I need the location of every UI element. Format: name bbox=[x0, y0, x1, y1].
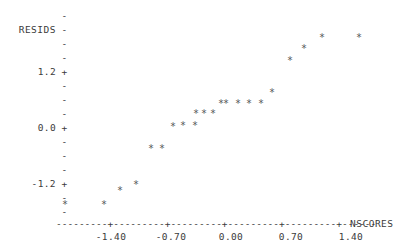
data-point: * bbox=[148, 145, 155, 152]
x-axis-tick-label: -0.70 bbox=[156, 230, 187, 244]
data-point: * bbox=[246, 100, 253, 107]
data-point: * bbox=[356, 34, 363, 41]
data-point: * bbox=[258, 100, 265, 107]
data-point: * bbox=[319, 34, 326, 41]
data-point: * bbox=[101, 201, 108, 208]
x-axis-tick-label: -1.40 bbox=[96, 230, 127, 244]
x-axis-title: NSCORES bbox=[350, 219, 394, 229]
data-point: * bbox=[133, 181, 140, 188]
data-point: * bbox=[193, 110, 200, 117]
data-point: * bbox=[159, 145, 166, 152]
data-point: * bbox=[269, 89, 276, 96]
data-point: * bbox=[170, 123, 177, 130]
data-point: * bbox=[235, 100, 242, 107]
data-point: * bbox=[223, 100, 230, 107]
x-axis-tick-label: 1.40 bbox=[339, 230, 363, 244]
data-point: * bbox=[192, 122, 199, 129]
data-point: * bbox=[62, 201, 69, 208]
normal-probability-plot: -RESIDS---1.2+---0.0+----1.2+-- ********… bbox=[0, 0, 414, 251]
x-axis-tick-label: 0.70 bbox=[279, 230, 303, 244]
data-point: * bbox=[180, 122, 187, 129]
x-axis-tick-label: 0.00 bbox=[219, 230, 243, 244]
data-point: * bbox=[287, 57, 294, 64]
data-point: * bbox=[201, 110, 208, 117]
data-point: * bbox=[117, 187, 124, 194]
data-point: * bbox=[210, 110, 217, 117]
data-point: * bbox=[301, 45, 308, 52]
x-axis-tick-labels: -1.40-0.700.000.701.40 bbox=[0, 230, 414, 244]
data-point-layer: ********************** bbox=[0, 0, 414, 251]
